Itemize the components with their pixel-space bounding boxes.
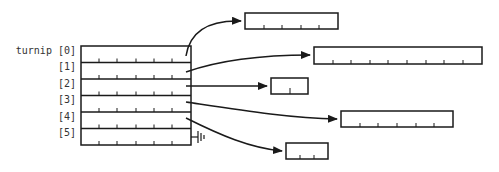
array-row-4 (286, 143, 328, 159)
null-pointer-icon (191, 131, 204, 143)
main-array (81, 46, 191, 145)
pointer-arrow-1 (186, 55, 310, 72)
jagged-array-diagram (0, 0, 499, 172)
array-row-2 (271, 78, 308, 94)
pointer-arrow-0 (186, 21, 241, 56)
array-row-3 (341, 111, 453, 127)
array-row-1 (314, 47, 482, 64)
pointer-arrow-3 (186, 102, 337, 119)
array-row-0 (245, 13, 338, 29)
